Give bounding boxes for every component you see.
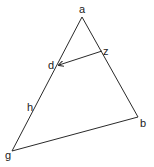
label-b: b: [140, 117, 146, 129]
edge-b-g: [12, 117, 138, 151]
label-d: d: [48, 59, 54, 71]
triangle-diagram: a z d h b g: [0, 0, 154, 167]
label-a: a: [79, 3, 86, 15]
label-g: g: [5, 149, 11, 161]
label-z: z: [103, 45, 109, 57]
edge-a-b: [82, 17, 138, 117]
label-h: h: [27, 101, 33, 113]
edge-z-d-arrow: [59, 51, 102, 65]
edge-g-a: [12, 17, 82, 151]
